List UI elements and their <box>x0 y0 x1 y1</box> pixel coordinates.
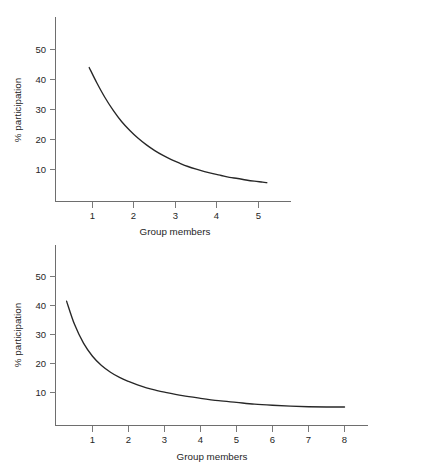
top-x-tick-label-4: 4 <box>214 210 219 221</box>
bottom-y-tick-label-10: 10 <box>35 387 46 398</box>
top-x-tick-label-1: 1 <box>90 210 95 221</box>
top-x-tick-label-2: 2 <box>131 210 136 221</box>
bottom-x-tick-label-6: 6 <box>270 434 275 445</box>
two-panel-decay-figure: 10 20 30 40 50 % participation 1 2 3 4 5… <box>0 0 428 476</box>
bottom-x-axis-title: Group members <box>177 451 248 462</box>
bottom-x-tick-label-8: 8 <box>342 434 347 445</box>
bottom-x-tick-label-3: 3 <box>162 434 167 445</box>
top-y-ticks <box>50 50 56 170</box>
top-x-tick-label-5: 5 <box>256 210 261 221</box>
bottom-y-tick-label-30: 30 <box>35 329 46 340</box>
bottom-x-tick-label-2: 2 <box>126 434 131 445</box>
top-x-ticks <box>93 202 259 209</box>
chart-panel-bottom: 10 20 30 40 50 % participation 1 2 3 <box>0 240 428 476</box>
top-y-tick-label-40: 40 <box>35 74 46 85</box>
bottom-x-tick-label-4: 4 <box>198 434 203 445</box>
bottom-y-tick-label-20: 20 <box>35 358 46 369</box>
top-x-axis-title: Group members <box>140 226 211 237</box>
bottom-participation-curve <box>67 301 345 407</box>
bottom-x-tick-label-5: 5 <box>234 434 239 445</box>
bottom-x-tick-label-1: 1 <box>90 434 95 445</box>
top-y-tick-label-30: 30 <box>35 104 46 115</box>
top-y-tick-label-50: 50 <box>35 44 46 55</box>
top-participation-curve <box>89 68 267 183</box>
top-y-tick-label-20: 20 <box>35 134 46 145</box>
bottom-x-ticks <box>93 426 345 433</box>
bottom-x-tick-label-7: 7 <box>306 434 311 445</box>
top-y-tick-label-10: 10 <box>35 164 46 175</box>
bottom-y-ticks <box>50 277 56 393</box>
chart-panel-top: 10 20 30 40 50 % participation 1 2 3 4 5… <box>0 0 428 240</box>
bottom-y-axis-title: % participation <box>12 303 23 367</box>
bottom-y-tick-label-50: 50 <box>35 271 46 282</box>
top-x-tick-label-3: 3 <box>173 210 178 221</box>
bottom-y-tick-label-40: 40 <box>35 300 46 311</box>
top-y-axis-title: % participation <box>12 78 23 142</box>
page-footnote <box>188 468 428 476</box>
